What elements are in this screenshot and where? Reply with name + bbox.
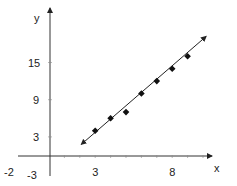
- axes: 38 3915 x y -2 -3: [4, 8, 220, 181]
- y-tick-label: 15: [28, 57, 40, 69]
- x-ticks: 38: [64, 155, 203, 178]
- y-tick-label-neg: -3: [27, 169, 37, 181]
- data-point-diamond: [169, 65, 176, 72]
- x-axis-label: x: [214, 162, 220, 174]
- x-tick-label: 8: [169, 166, 175, 178]
- y-ticks: 3915: [28, 57, 52, 143]
- best-fit-line: [81, 36, 206, 144]
- chart-svg: 38 3915 x y -2 -3: [0, 0, 237, 186]
- x-tick-label: 3: [92, 166, 98, 178]
- y-axis-label: y: [34, 12, 40, 24]
- data-point-diamond: [138, 90, 145, 97]
- data-point-diamond: [123, 109, 130, 116]
- x-tick-label-neg: -2: [4, 166, 14, 178]
- y-tick-label: 9: [33, 94, 39, 106]
- y-tick-label: 3: [33, 131, 39, 143]
- plot-area: [81, 36, 206, 144]
- scatter-chart: 38 3915 x y -2 -3: [0, 0, 237, 186]
- data-point-diamond: [154, 78, 161, 85]
- data-point-diamond: [92, 127, 99, 134]
